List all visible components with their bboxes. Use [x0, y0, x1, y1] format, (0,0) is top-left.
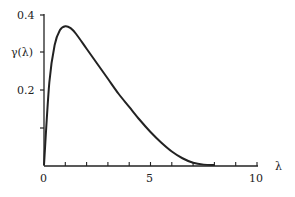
y-axis-label: γ(λ) — [11, 46, 33, 59]
chart: 0.4 0.2 γ(λ) 0 5 10 λ — [0, 0, 295, 197]
gamma-curve — [44, 26, 214, 165]
x-tick-5: 5 — [146, 172, 153, 185]
x-axis — [44, 162, 258, 166]
y-tick-0.4: 0.4 — [17, 9, 35, 22]
x-tick-10: 10 — [249, 172, 263, 185]
x-tick-0: 0 — [40, 172, 47, 185]
x-axis-label: λ — [275, 160, 282, 173]
y-axis — [40, 14, 44, 166]
y-tick-0.2: 0.2 — [17, 84, 35, 97]
